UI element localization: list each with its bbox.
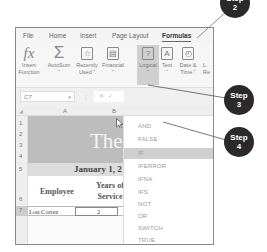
callout-leader-lines: [0, 0, 267, 252]
step-3-callout: Step 3: [224, 85, 254, 115]
step-4-callout: Step 4: [224, 127, 254, 157]
